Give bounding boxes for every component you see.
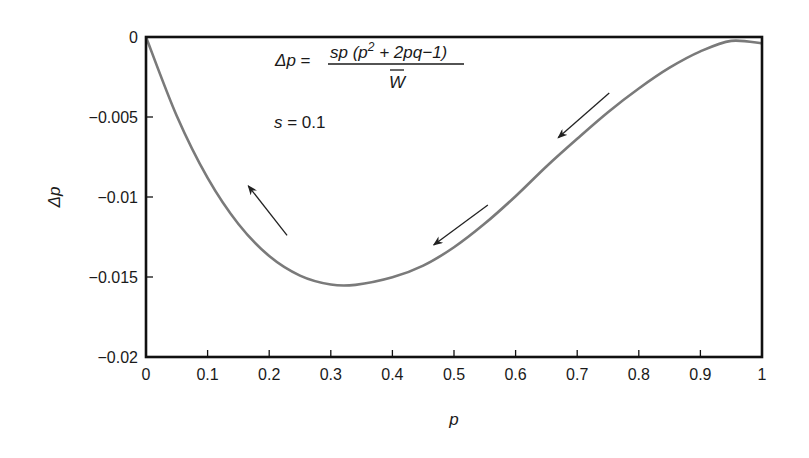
y-tick-label: −0.005 [89, 109, 138, 126]
x-tick-label: 0.3 [320, 366, 342, 383]
y-axis-title: Δp [45, 187, 64, 209]
parameter-s-label: s = 0.1 [274, 113, 326, 132]
arrow-icon [558, 93, 609, 138]
y-tick-label: −0.02 [98, 349, 139, 366]
x-tick-label: 0.9 [689, 366, 711, 383]
y-tick-label: −0.015 [89, 269, 138, 286]
x-tick-label: 0.6 [504, 366, 526, 383]
x-axis-ticks: 00.10.20.30.40.50.60.70.80.91 [142, 350, 767, 383]
x-tick-label: 0 [142, 366, 151, 383]
x-tick-label: 0.8 [628, 366, 650, 383]
svg-text:Δp =: Δp = [274, 51, 311, 70]
x-tick-label: 0.2 [258, 366, 280, 383]
plot-frame [146, 37, 762, 357]
chart: 00.10.20.30.40.50.60.70.80.91 0−0.005−0.… [0, 0, 809, 458]
x-tick-label: 0.4 [381, 366, 403, 383]
equation-equals: = [296, 51, 311, 70]
arrow-icon [248, 186, 287, 236]
arrow-icon [434, 205, 488, 245]
svg-text:sp (p2 + 2pq−1): sp (p2 + 2pq−1) [330, 40, 447, 62]
equation-annotation: Δp = sp (p2 + 2pq−1) W [274, 40, 464, 92]
x-tick-label: 1 [758, 366, 767, 383]
x-tick-label: 0.7 [566, 366, 588, 383]
x-tick-label: 0.5 [443, 366, 465, 383]
equation-denominator: W [389, 73, 407, 92]
equation-numerator: sp (p [330, 43, 368, 62]
equation-lhs: Δp [274, 51, 296, 70]
y-tick-label: −0.01 [98, 189, 139, 206]
y-tick-label: 0 [129, 29, 138, 46]
delta-p-curve [146, 37, 762, 286]
x-axis-title: p [448, 410, 458, 429]
x-tick-label: 0.1 [196, 366, 218, 383]
y-axis-ticks: 0−0.005−0.01−0.015−0.02 [89, 29, 153, 366]
